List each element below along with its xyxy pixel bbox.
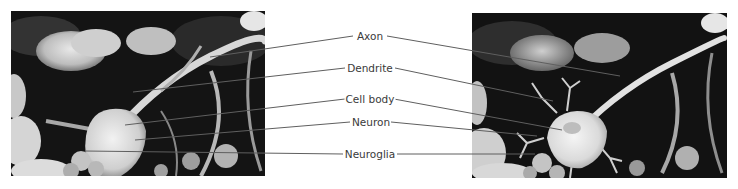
label-neuron: Neuron bbox=[351, 116, 391, 128]
illustration-image bbox=[472, 13, 727, 178]
label-cell-body: Cell body bbox=[345, 93, 396, 105]
illustrated-neuron-right bbox=[472, 13, 727, 178]
neuron-figure: Axon Dendrite Cell body Neuron Neuroglia bbox=[0, 0, 738, 189]
sem-micrograph-left bbox=[11, 11, 265, 176]
sem-image bbox=[11, 11, 265, 176]
label-dendrite: Dendrite bbox=[346, 62, 394, 74]
label-neuroglia: Neuroglia bbox=[344, 148, 396, 160]
label-axon: Axon bbox=[356, 30, 384, 42]
